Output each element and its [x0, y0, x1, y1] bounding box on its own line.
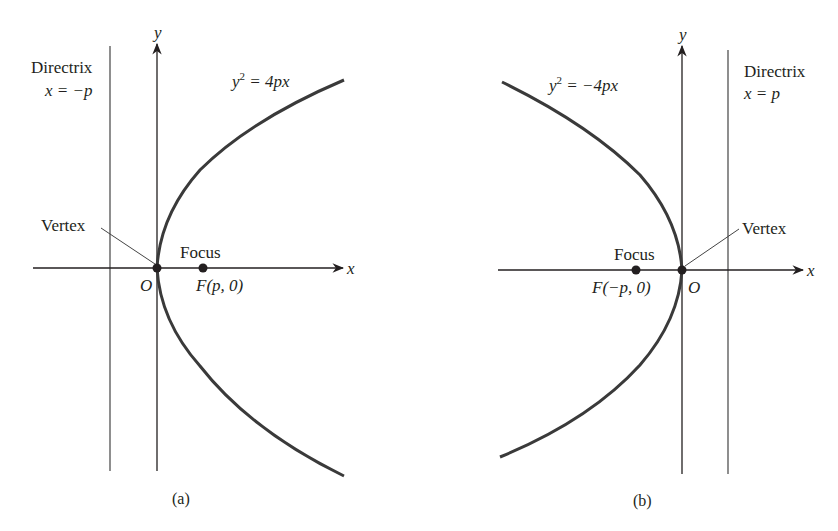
- vertex-pointer-a: [101, 228, 155, 264]
- directrix-equation-b: x = p: [743, 84, 780, 103]
- y-axis-label-b: y: [677, 25, 687, 44]
- vertex-dot-a: [153, 264, 162, 273]
- equation-a: y2 = 4px: [230, 70, 290, 91]
- focus-label-b: Focus: [614, 245, 655, 264]
- directrix-label-b: Directrix: [744, 62, 806, 81]
- origin-label-a: O: [140, 276, 152, 295]
- vertex-label-b: Vertex: [742, 219, 787, 238]
- caption-b: (b): [633, 492, 652, 510]
- focus-label-a: Focus: [180, 243, 221, 262]
- figure-a: y x Directrix x = −p y2 = 4px Vertex Foc…: [31, 23, 355, 508]
- figure-b: y x Directrix x = p y2 = −4px Vertex Foc…: [498, 25, 815, 510]
- focus-point-label-b: F(−p, 0): [591, 278, 651, 297]
- focus-dot-b: [632, 266, 641, 275]
- x-axis-label-b: x: [806, 261, 815, 280]
- origin-label-b: O: [688, 278, 700, 297]
- focus-dot-a: [199, 264, 208, 273]
- parabola-diagram: y x Directrix x = −p y2 = 4px Vertex Foc…: [0, 0, 838, 531]
- directrix-label-a: Directrix: [31, 58, 93, 77]
- directrix-equation-a: x = −p: [44, 81, 93, 100]
- parabola-curve-a: [157, 80, 344, 476]
- y-axis-label-a: y: [152, 23, 162, 42]
- vertex-pointer-b: [685, 229, 739, 266]
- equation-b: y2 = −4px: [547, 74, 618, 95]
- x-axis-label-a: x: [346, 259, 355, 278]
- vertex-dot-b: [678, 266, 687, 275]
- vertex-label-a: Vertex: [41, 216, 86, 235]
- focus-point-label-a: F(p, 0): [195, 276, 244, 295]
- caption-a: (a): [172, 490, 190, 508]
